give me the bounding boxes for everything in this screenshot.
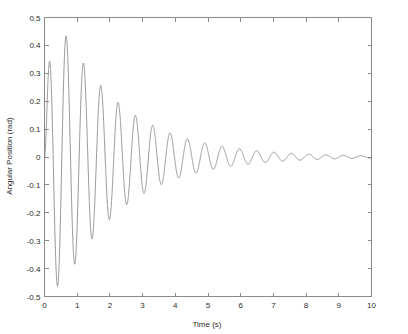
plot-background xyxy=(0,0,408,334)
y-tick-label: -0.1 xyxy=(27,181,41,190)
y-tick-label: -0.5 xyxy=(27,293,41,302)
y-tick-label: -0.4 xyxy=(27,265,41,274)
x-tick-label: 4 xyxy=(173,301,178,310)
y-tick-label: 0.2 xyxy=(29,97,41,106)
y-tick-label: 0 xyxy=(36,153,41,162)
x-tick-label: 5 xyxy=(206,301,211,310)
x-tick-label: 3 xyxy=(140,301,145,310)
chart-figure: 012345678910 -0.5-0.4-0.3-0.2-0.100.10.2… xyxy=(0,0,408,334)
x-tick-label: 7 xyxy=(271,301,276,310)
y-tick-label: -0.3 xyxy=(27,237,41,246)
y-tick-label: 0.4 xyxy=(29,41,41,50)
x-tick-label: 6 xyxy=(238,301,243,310)
x-tick-label: 1 xyxy=(75,301,80,310)
x-tick-label: 0 xyxy=(42,301,47,310)
x-tick-label: 2 xyxy=(108,301,113,310)
x-tick-label: 9 xyxy=(337,301,342,310)
y-tick-label: 0.1 xyxy=(29,125,41,134)
y-tick-label: -0.2 xyxy=(27,209,41,218)
x-tick-label: 10 xyxy=(367,301,376,310)
y-tick-label: 0.5 xyxy=(29,14,41,23)
x-axis-title: Time (s) xyxy=(192,320,221,329)
damped-oscillation-plot: 012345678910 -0.5-0.4-0.3-0.2-0.100.10.2… xyxy=(0,0,408,334)
x-tick-label: 8 xyxy=(304,301,309,310)
y-tick-label: 0.3 xyxy=(29,69,41,78)
y-axis-title: Angular Position (rad) xyxy=(5,117,14,195)
